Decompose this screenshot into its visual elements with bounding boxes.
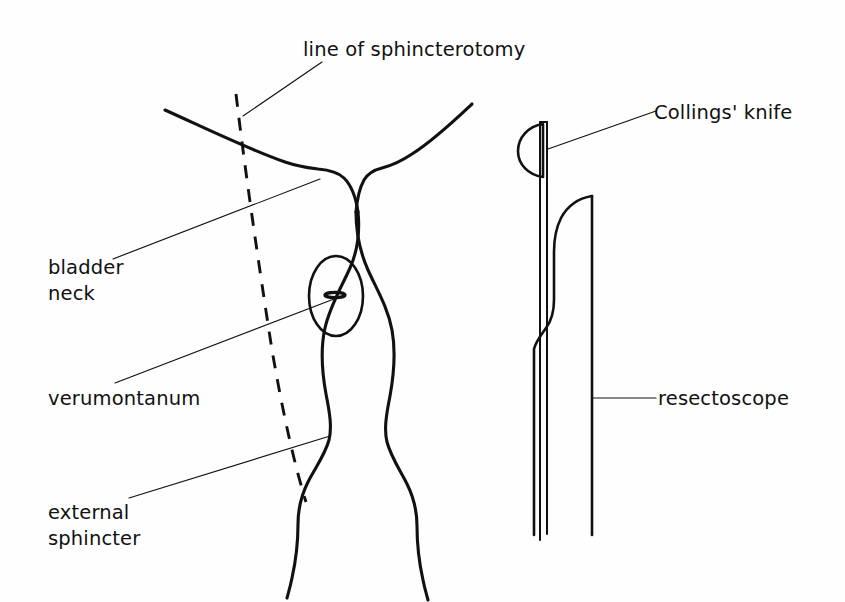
leader-line-sphincterotomy bbox=[243, 62, 322, 116]
label-collings-knife: Collings' knife bbox=[654, 100, 792, 126]
label-external-sphincter-line2: sphincter bbox=[48, 527, 140, 550]
leader-line-verumontanum bbox=[115, 299, 334, 383]
label-bladder-neck: bladderneck bbox=[48, 255, 124, 306]
resectoscope-sheath-tip bbox=[534, 196, 592, 535]
urethra-right-wall bbox=[356, 212, 428, 600]
verumontanum-slit bbox=[325, 292, 345, 297]
sphincterotomy-diagram: line of sphincterotomy Collings' knife b… bbox=[0, 0, 845, 602]
label-bladder-neck-line1: bladder bbox=[48, 256, 124, 279]
label-external-sphincter-line1: external bbox=[48, 501, 129, 524]
leader-line-external-sphincter bbox=[129, 436, 330, 498]
bladder-base-right-outline bbox=[356, 104, 472, 212]
label-line-of-sphincterotomy: line of sphincterotomy bbox=[303, 37, 525, 63]
leader-line-collings-knife bbox=[548, 111, 656, 149]
label-external-sphincter: externalsphincter bbox=[48, 500, 140, 551]
urethra-left-wall bbox=[287, 212, 359, 598]
bladder-base-left-outline bbox=[165, 110, 358, 212]
label-bladder-neck-line2: neck bbox=[48, 282, 95, 305]
label-verumontanum: verumontanum bbox=[48, 386, 200, 412]
leader-line-bladder-neck bbox=[113, 179, 320, 259]
label-resectoscope: resectoscope bbox=[658, 386, 789, 412]
